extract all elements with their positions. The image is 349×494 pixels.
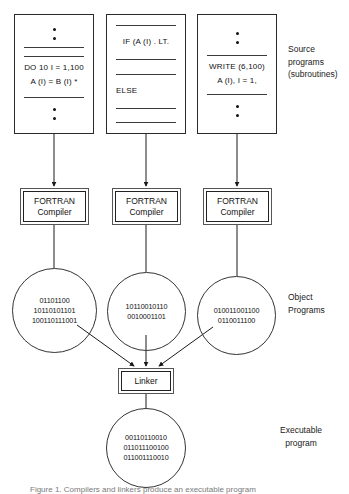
code-line: A (I) = B (I) * xyxy=(30,76,77,88)
object-bits-line: 010011001100 xyxy=(214,306,260,316)
object-bits-line: 0110011100 xyxy=(218,316,255,326)
code-rule xyxy=(24,97,83,98)
compiler-box-1-content: FORTRAN Compiler xyxy=(23,191,86,222)
code-rule xyxy=(207,94,266,95)
code-line: A (I), I = 1, xyxy=(217,75,257,87)
source-box-2-content: IF (A (I) . LT. ELSE xyxy=(107,15,185,133)
executable-program-label-line1: Executable xyxy=(280,424,322,437)
figure-caption: Figure 1. Compilers and linkers produce … xyxy=(30,485,256,494)
ellipsis-dot xyxy=(236,114,239,117)
object-circle-3: 010011001100 0110011100 xyxy=(197,276,276,355)
compiler-box-2: FORTRAN Compiler xyxy=(112,188,181,225)
compiler-box-2-content: FORTRAN Compiler xyxy=(115,191,178,222)
compiler-label-line1: FORTRAN xyxy=(34,196,75,207)
object-programs-label-line1: Object xyxy=(288,291,325,304)
code-rule xyxy=(116,59,175,60)
compiler-label-line2: Compiler xyxy=(220,207,254,218)
source-box-1: DO 10 I = 1,100 A (I) = B (I) * xyxy=(14,14,94,134)
executable-circle: 00110110010 011011100100 011001110010 xyxy=(106,408,186,488)
source-programs-label-line1: Source xyxy=(288,43,338,56)
object-bits-line: 100110111001 xyxy=(32,316,77,326)
object-circle-1: 01101100 10110101101 100110111001 xyxy=(12,268,97,353)
executable-bits-line: 011001110010 xyxy=(123,453,168,463)
executable-bits-line: 00110110010 xyxy=(125,433,167,443)
ellipsis-dot xyxy=(236,105,239,108)
linker-box-content: Linker xyxy=(121,371,171,391)
object-bits-line: 10110101101 xyxy=(34,306,76,316)
source-box-3: WRITE (6,100) A (I), I = 1, xyxy=(197,14,277,134)
compiler-label-line2: Compiler xyxy=(129,207,163,218)
code-line: ELSE xyxy=(116,85,137,97)
linker-label: Linker xyxy=(134,376,157,386)
code-rule xyxy=(116,25,175,26)
source-programs-label-line2: programs xyxy=(288,56,338,69)
code-rule xyxy=(24,47,83,48)
compiler-label-line1: FORTRAN xyxy=(126,196,167,207)
executable-program-label-line2: program xyxy=(280,437,322,450)
object-programs-label: Object Programs xyxy=(288,291,325,316)
executable-bits-line: 011011100100 xyxy=(123,443,168,453)
object-bits-line: 10110010110 xyxy=(126,302,168,312)
object-circle-2: 10110010110 0010001101 xyxy=(107,272,186,351)
object-bits-line: 01101100 xyxy=(39,296,69,306)
code-line: IF (A (I) . LT. xyxy=(123,36,169,48)
ellipsis-dot xyxy=(236,32,239,35)
compiler-label-line2: Compiler xyxy=(37,207,71,218)
ellipsis-dot xyxy=(53,117,56,120)
compiler-box-3-content: FORTRAN Compiler xyxy=(206,191,269,222)
object-bits-line: 0010001101 xyxy=(127,312,165,322)
compiler-label-line1: FORTRAN xyxy=(217,196,258,207)
linker-box: Linker xyxy=(118,368,174,394)
source-programs-label-line3: (subroutines) xyxy=(288,68,338,81)
code-rule xyxy=(116,108,175,109)
ellipsis-dot xyxy=(53,108,56,111)
code-rule xyxy=(116,74,175,75)
source-box-1-content: DO 10 I = 1,100 A (I) = B (I) * xyxy=(15,15,93,133)
code-line: DO 10 I = 1,100 xyxy=(24,62,84,74)
code-line: WRITE (6,100) xyxy=(209,61,265,73)
code-rule xyxy=(24,56,83,57)
source-box-2: IF (A (I) . LT. ELSE xyxy=(106,14,186,134)
source-programs-label: Source programs (subroutines) xyxy=(288,43,338,81)
code-rule xyxy=(207,55,266,56)
object-programs-label-line2: Programs xyxy=(288,304,325,317)
compiler-box-3: FORTRAN Compiler xyxy=(203,188,272,225)
source-box-3-content: WRITE (6,100) A (I), I = 1, xyxy=(198,15,276,133)
ellipsis-dot xyxy=(236,41,239,44)
ellipsis-dot xyxy=(53,37,56,40)
ellipsis-dot xyxy=(53,28,56,31)
code-rule xyxy=(116,122,175,123)
executable-program-label: Executable program xyxy=(280,424,322,449)
compiler-box-1: FORTRAN Compiler xyxy=(20,188,89,225)
